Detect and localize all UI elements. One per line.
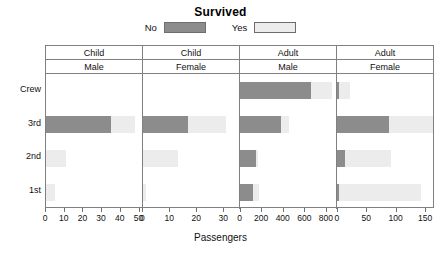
panel-adult-male xyxy=(240,74,337,209)
legend-swatch-no xyxy=(164,22,206,33)
bar-2nd xyxy=(240,150,258,167)
x-tick-label: 20 xyxy=(78,213,87,223)
x-tick-label: 0 xyxy=(140,213,145,223)
bar-segment-yes xyxy=(143,150,178,167)
y-axis-label-1st: 1st xyxy=(0,185,41,195)
bar-3rd xyxy=(240,116,289,133)
bar-segment-yes xyxy=(46,150,66,167)
x-axis-panel-3: 050100150 xyxy=(337,208,434,230)
bar-segment-no xyxy=(240,82,311,99)
x-tick xyxy=(240,208,241,212)
bar-1st xyxy=(337,184,421,201)
x-tick xyxy=(337,208,338,212)
strip-sex-1: Female xyxy=(143,60,240,73)
x-tick xyxy=(169,208,170,212)
y-axis-label-2nd: 2nd xyxy=(0,151,41,161)
x-tick-label: 0 xyxy=(43,213,48,223)
strip-sex-3: Female xyxy=(337,60,433,73)
x-tick xyxy=(101,208,102,212)
x-tick xyxy=(139,208,140,212)
strip-row-sex: Male Female Male Female xyxy=(46,60,433,74)
strip-age-0: Child xyxy=(46,46,143,59)
x-tick-label: 100 xyxy=(389,213,403,223)
bar-segment-no xyxy=(240,116,281,133)
bar-segment-no xyxy=(337,116,389,133)
bar-crew xyxy=(337,82,350,99)
strip-sex-0: Male xyxy=(46,60,143,73)
panel-adult-female xyxy=(337,74,433,209)
x-axis-panel-1: 0102030 xyxy=(142,208,239,230)
legend-label-yes: Yes xyxy=(232,22,248,33)
x-tick-label: 10 xyxy=(165,213,174,223)
strip-age-3: Adult xyxy=(337,46,433,59)
x-tick xyxy=(64,208,65,212)
legend-label-no: No xyxy=(145,22,157,33)
x-tick-label: 400 xyxy=(276,213,290,223)
x-tick-label: 10 xyxy=(59,213,68,223)
x-tick-label: 30 xyxy=(96,213,105,223)
bar-segment-yes xyxy=(46,184,55,201)
x-tick xyxy=(142,208,143,212)
plot-frame: Child Child Adult Adult Male Female Male… xyxy=(45,45,434,208)
x-tick xyxy=(120,208,121,212)
bar-segment-yes xyxy=(111,116,135,133)
x-axis-panel-0: 01020304050 xyxy=(45,208,142,230)
x-tick-label: 0 xyxy=(334,213,339,223)
panel-grid xyxy=(46,74,433,209)
x-tick-label: 30 xyxy=(219,213,228,223)
x-tick xyxy=(223,208,224,212)
bar-segment-yes xyxy=(256,150,257,167)
bar-segment-no xyxy=(46,116,111,133)
x-axes: 0102030405001020300200400600800050100150 xyxy=(45,208,434,230)
x-axis-title: Passengers xyxy=(0,232,441,243)
x-axis-panel-2: 0200400600800 xyxy=(240,208,337,230)
legend-swatch-yes xyxy=(254,22,296,33)
bar-1st xyxy=(240,184,259,201)
x-tick-label: 40 xyxy=(115,213,124,223)
bar-segment-no xyxy=(143,116,188,133)
strip-age-2: Adult xyxy=(240,46,337,59)
bar-segment-yes xyxy=(143,184,146,201)
bar-segment-no xyxy=(240,150,256,167)
bar-crew xyxy=(240,82,332,99)
bar-segment-yes xyxy=(311,82,331,99)
x-tick xyxy=(396,208,397,212)
x-tick xyxy=(261,208,262,212)
panel-child-male xyxy=(46,74,143,209)
legend-item-no: No xyxy=(145,22,206,33)
bar-segment-yes xyxy=(389,116,433,133)
bar-segment-yes xyxy=(188,116,225,133)
x-tick-label: 600 xyxy=(297,213,311,223)
x-tick xyxy=(283,208,284,212)
bar-segment-yes xyxy=(339,82,351,99)
x-tick-label: 20 xyxy=(192,213,201,223)
x-tick-label: 200 xyxy=(254,213,268,223)
bar-1st xyxy=(46,184,55,201)
x-tick-label: 150 xyxy=(418,213,432,223)
x-tick xyxy=(425,208,426,212)
y-axis-label-crew: Crew xyxy=(0,84,41,94)
strip-age-1: Child xyxy=(143,46,240,59)
x-tick xyxy=(196,208,197,212)
bar-segment-yes xyxy=(345,150,392,167)
chart-title: Survived xyxy=(0,5,441,19)
strip-row-age: Child Child Adult Adult xyxy=(46,46,433,60)
bar-2nd xyxy=(337,150,391,167)
x-tick xyxy=(45,208,46,212)
bar-3rd xyxy=(143,116,226,133)
x-tick xyxy=(304,208,305,212)
bar-segment-no xyxy=(240,184,253,201)
bar-2nd xyxy=(46,150,66,167)
x-tick xyxy=(326,208,327,212)
strip-sex-2: Male xyxy=(240,60,337,73)
x-tick-label: 800 xyxy=(319,213,333,223)
bar-segment-yes xyxy=(339,184,420,201)
bar-segment-yes xyxy=(253,184,259,201)
bar-segment-yes xyxy=(281,116,289,133)
bar-3rd xyxy=(46,116,135,133)
bar-1st xyxy=(143,184,146,201)
bar-segment-no xyxy=(337,150,345,167)
bar-2nd xyxy=(143,150,178,167)
bar-3rd xyxy=(337,116,433,133)
panel-child-female xyxy=(143,74,240,209)
